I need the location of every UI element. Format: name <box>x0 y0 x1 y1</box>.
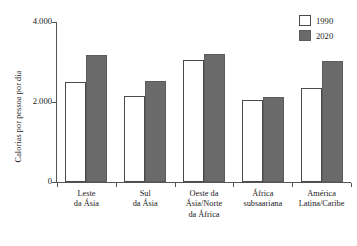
bar-group <box>233 22 292 182</box>
bar-2020 <box>322 61 343 182</box>
y-tick-mark <box>52 182 56 183</box>
legend-item-2020: 2020 <box>299 28 333 43</box>
legend-label-2020: 2020 <box>316 31 333 41</box>
bar-group <box>175 22 234 182</box>
bar-chart: Calorias por pessoa por dia 02.0004.000 … <box>0 0 357 246</box>
bar-1990 <box>183 60 204 182</box>
bar-2020 <box>145 81 166 182</box>
x-category-label: Sulda Ásia <box>116 189 175 210</box>
y-tick-label: 4.000 <box>33 16 52 26</box>
bar-2020 <box>263 97 284 182</box>
bar-2020 <box>86 55 107 182</box>
plot-area <box>57 22 351 182</box>
x-category-label: AméricaLatina/Caribe <box>292 189 351 210</box>
bar-1990 <box>65 82 86 182</box>
x-tick-mark <box>57 183 58 187</box>
chart-legend: 1990 2020 <box>299 13 333 43</box>
x-tick-mark <box>116 183 117 187</box>
legend-item-1990: 1990 <box>299 13 333 28</box>
legend-swatch-1990-icon <box>299 15 311 26</box>
bar-group <box>57 22 116 182</box>
x-tick-mark <box>351 183 352 187</box>
x-category-label: Áfricasubsaariana <box>233 189 292 210</box>
bar-1990 <box>124 96 145 182</box>
legend-swatch-2020-icon <box>299 30 311 41</box>
x-tick-mark <box>233 183 234 187</box>
y-tick-mark <box>52 22 56 23</box>
bar-2020 <box>204 54 225 182</box>
legend-label-1990: 1990 <box>316 16 333 26</box>
bar-group <box>116 22 175 182</box>
x-category-label: Lesteda Ásia <box>57 189 116 210</box>
y-tick-label: 2.000 <box>33 96 52 106</box>
y-tick-mark <box>52 102 56 103</box>
x-axis-line <box>56 182 351 183</box>
x-category-label: Oeste daÁsia/Norteda África <box>175 189 234 220</box>
y-tick-label: 0 <box>48 176 52 186</box>
bar-group <box>292 22 351 182</box>
y-axis-title: Calorias por pessoa por dia <box>14 42 23 192</box>
x-tick-mark <box>175 183 176 187</box>
bar-1990 <box>242 100 263 182</box>
x-tick-mark <box>292 183 293 187</box>
bar-1990 <box>301 88 322 182</box>
